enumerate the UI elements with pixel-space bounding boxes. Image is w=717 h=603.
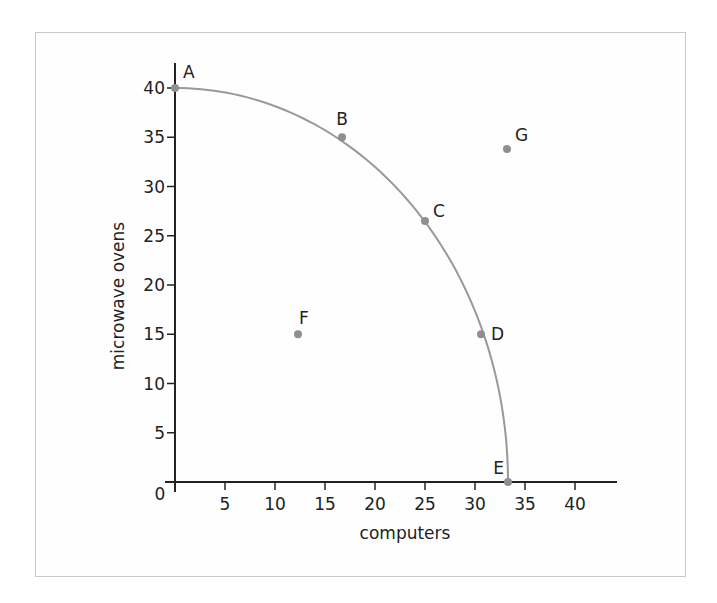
y-tick-label: 15 — [143, 324, 165, 344]
point-b — [338, 133, 346, 141]
ppf-chart: 510152025303540510152025303540 ABCDEFG c… — [0, 0, 717, 603]
y-tick-label: 20 — [143, 275, 165, 295]
y-tick-label: 25 — [143, 226, 165, 246]
point-label-c: C — [433, 201, 445, 221]
point-d — [477, 330, 485, 338]
x-tick-label: 25 — [414, 494, 436, 514]
y-tick-label: 40 — [143, 78, 165, 98]
y-tick-label: 35 — [143, 127, 165, 147]
x-tick-label: 5 — [220, 494, 231, 514]
x-axis-label: computers — [360, 523, 451, 543]
point-label-f: F — [299, 308, 309, 328]
y-axis-label: microwave ovens — [108, 222, 128, 371]
point-a — [171, 84, 179, 92]
point-g — [503, 145, 511, 153]
x-tick-label: 30 — [464, 494, 486, 514]
y-tick-label: 10 — [143, 374, 165, 394]
x-tick-label: 40 — [564, 494, 586, 514]
point-label-d: D — [491, 324, 504, 344]
point-label-b: B — [336, 109, 348, 129]
ppf-curve — [175, 88, 508, 482]
point-label-e: E — [493, 458, 504, 478]
y-tick-label: 5 — [154, 423, 165, 443]
point-label-g: G — [515, 125, 528, 145]
point-label-a: A — [183, 62, 195, 82]
point-e — [504, 478, 512, 486]
x-tick-label: 15 — [314, 494, 336, 514]
axes — [165, 63, 617, 492]
point-c — [421, 217, 429, 225]
data-points: ABCDEFG — [171, 62, 528, 486]
x-tick-label: 35 — [514, 494, 536, 514]
origin-label: 0 — [155, 484, 166, 504]
ppf-curve-path — [175, 88, 508, 482]
x-tick-label: 20 — [364, 494, 386, 514]
y-tick-label: 30 — [143, 177, 165, 197]
point-f — [294, 330, 302, 338]
x-tick-label: 10 — [264, 494, 286, 514]
